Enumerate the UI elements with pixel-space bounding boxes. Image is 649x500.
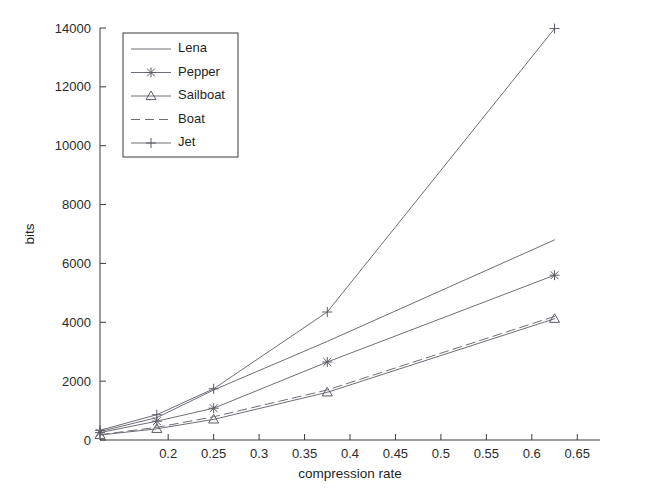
y-tick-label: 14000	[55, 21, 91, 36]
data-point-marker	[550, 24, 560, 34]
y-tick-label: 10000	[55, 138, 91, 153]
legend-label: Pepper	[178, 64, 221, 79]
legend-label: Jet	[178, 134, 196, 149]
y-tick-label: 2000	[62, 374, 91, 389]
data-point-marker	[209, 384, 219, 394]
data-point-marker	[550, 270, 560, 280]
data-point-marker	[322, 307, 332, 317]
x-tick-label: 0.5	[432, 446, 450, 461]
x-tick-label: 0.3	[250, 446, 268, 461]
series-line	[100, 319, 555, 435]
x-tick-label: 0.35	[292, 446, 317, 461]
legend-label: Boat	[178, 111, 205, 126]
y-axis-tick-labels: 02000400060008000100001200014000	[55, 21, 91, 448]
data-point-marker	[322, 357, 332, 367]
y-axis-title: bits	[22, 223, 37, 244]
x-tick-label: 0.4	[341, 446, 359, 461]
series-boat	[100, 316, 555, 434]
x-tick-label: 0.45	[383, 446, 408, 461]
x-axis-title: compression rate	[298, 466, 402, 481]
series-line	[100, 240, 555, 432]
x-tick-label: 0.65	[565, 446, 590, 461]
x-tick-label: 0.2	[159, 446, 177, 461]
x-tick-label: 0.25	[201, 446, 226, 461]
line-chart: 0.20.250.30.350.40.450.50.550.60.65 0200…	[0, 0, 649, 500]
data-point-marker	[209, 403, 219, 413]
y-axis-ticks	[100, 28, 106, 440]
series-line	[100, 316, 555, 434]
x-tick-label: 0.6	[523, 446, 541, 461]
legend-label: Sailboat	[178, 87, 225, 102]
y-tick-label: 12000	[55, 79, 91, 94]
x-axis-tick-labels: 0.20.250.30.350.40.450.50.550.60.65	[159, 446, 590, 461]
y-tick-label: 0	[84, 433, 91, 448]
y-tick-label: 8000	[62, 197, 91, 212]
y-tick-label: 4000	[62, 315, 91, 330]
x-tick-label: 0.55	[474, 446, 499, 461]
y-tick-label: 6000	[62, 256, 91, 271]
legend-marker-star	[146, 68, 156, 78]
chart-legend: LenaPepperSailboatBoatJet	[123, 33, 238, 157]
x-axis-ticks	[168, 434, 577, 440]
legend-label: Lena	[178, 40, 208, 55]
series-lena	[100, 240, 555, 432]
series-pepper	[95, 270, 560, 437]
chart-figure: 0.20.250.30.350.40.450.50.550.60.65 0200…	[0, 0, 649, 500]
